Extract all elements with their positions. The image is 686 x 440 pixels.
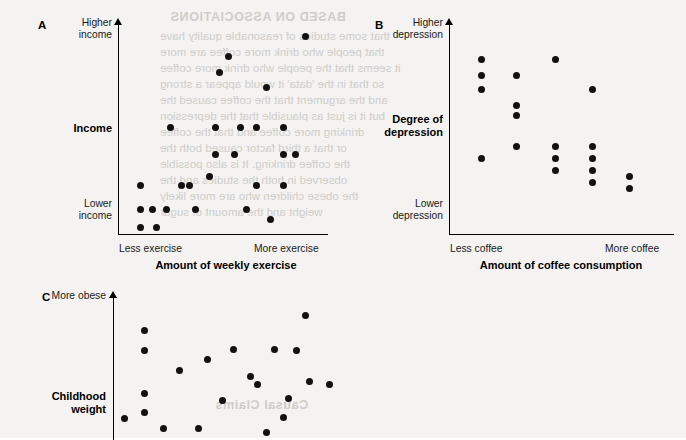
panel-c-y-high-label: More obese — [18, 290, 106, 302]
data-point — [478, 86, 485, 93]
data-point — [263, 429, 270, 436]
data-point — [141, 409, 148, 416]
panel-a-x-high-label: More exercise — [254, 243, 319, 255]
panel-b: B Higherdepression Lowerdepression Degre… — [343, 0, 686, 275]
panel-a-x-axis-title: Amount of weekly exercise — [110, 259, 342, 271]
data-point — [271, 346, 278, 353]
data-point — [141, 390, 148, 397]
data-point — [186, 182, 193, 189]
data-point — [137, 182, 144, 189]
data-point — [292, 151, 299, 158]
data-point — [243, 206, 250, 213]
panel-b-y-low-label: Lowerdepression — [357, 198, 443, 222]
data-point — [589, 86, 596, 93]
data-point — [626, 173, 633, 180]
panel-b-y-high-label: Higherdepression — [357, 17, 443, 41]
data-point — [167, 124, 174, 131]
panel-c-y-axis — [113, 298, 114, 440]
data-point — [306, 378, 313, 385]
data-point — [225, 53, 232, 60]
data-point — [280, 414, 287, 421]
data-point — [589, 155, 596, 162]
panel-a-plot-area — [122, 28, 326, 232]
data-point — [153, 224, 160, 231]
data-point — [513, 143, 520, 150]
data-point — [293, 347, 300, 354]
data-point — [149, 206, 156, 213]
data-point — [589, 167, 596, 174]
data-point — [552, 56, 559, 63]
data-point — [137, 206, 144, 213]
panel-b-x-high-label: More coffee — [605, 243, 659, 255]
data-point — [254, 381, 261, 388]
panel-a-x-low-label: Less exercise — [119, 243, 182, 255]
data-point — [121, 415, 128, 422]
data-point — [552, 167, 559, 174]
panel-b-x-axis-title: Amount of coffee consumption — [435, 259, 686, 271]
data-point — [219, 397, 226, 404]
data-point — [302, 312, 309, 319]
data-point — [192, 206, 199, 213]
data-point — [280, 182, 287, 189]
data-point — [176, 367, 183, 374]
panel-b-y-axis — [449, 25, 450, 234]
data-point — [178, 182, 185, 189]
data-point — [247, 373, 254, 380]
data-point — [195, 425, 202, 432]
data-point — [285, 395, 292, 402]
panel-a: A Higherincome Lowerincome Income Less e… — [0, 0, 343, 275]
data-point — [513, 72, 520, 79]
data-point — [267, 216, 274, 223]
data-point — [204, 356, 211, 363]
data-point — [589, 143, 596, 150]
data-point — [163, 206, 170, 213]
panel-c-plot-area — [118, 301, 336, 435]
panel-a-y-axis-title: Income — [28, 122, 112, 135]
data-point — [326, 381, 333, 388]
data-point — [141, 347, 148, 354]
data-point — [478, 72, 485, 79]
data-point — [626, 185, 633, 192]
data-point — [141, 327, 148, 334]
panel-a-y-axis — [118, 25, 119, 234]
panel-b-y-axis-arrow — [445, 18, 453, 25]
data-point — [212, 151, 219, 158]
data-point — [513, 102, 520, 109]
data-point — [513, 112, 520, 119]
panel-b-x-axis — [449, 234, 674, 235]
data-point — [302, 33, 309, 40]
panel-c: C More obese Childhoodweight — [0, 285, 400, 438]
panel-b-x-low-label: Less coffee — [450, 243, 502, 255]
panel-c-y-axis-arrow — [109, 291, 117, 298]
panel-a-y-high-label: Higherincome — [40, 17, 112, 41]
data-point — [231, 151, 238, 158]
data-point — [478, 155, 485, 162]
panel-c-y-axis-title: Childhoodweight — [10, 390, 106, 416]
data-point — [216, 69, 223, 76]
panel-a-x-axis — [118, 234, 328, 235]
data-point — [137, 224, 144, 231]
panel-a-y-axis-arrow — [114, 18, 122, 25]
data-point — [263, 84, 270, 91]
data-point — [280, 151, 287, 158]
data-point — [237, 124, 244, 131]
data-point — [552, 155, 559, 162]
data-point — [230, 346, 237, 353]
data-point — [478, 56, 485, 63]
data-point — [552, 143, 559, 150]
data-point — [280, 124, 287, 131]
data-point — [589, 179, 596, 186]
panel-b-plot-area — [453, 30, 671, 228]
data-point — [253, 182, 260, 189]
data-point — [212, 124, 219, 131]
data-point — [160, 425, 167, 432]
data-point — [206, 173, 213, 180]
panel-b-y-axis-title: Degree ofdepression — [351, 113, 443, 139]
panel-a-y-low-label: Lowerincome — [40, 198, 112, 222]
data-point — [253, 124, 260, 131]
